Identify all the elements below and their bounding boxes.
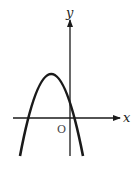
coordinate-graph: y x O xyxy=(0,0,138,170)
parabola-curve xyxy=(20,74,83,156)
origin-label: O xyxy=(57,123,66,136)
x-axis-label: x xyxy=(123,110,131,125)
y-axis-label: y xyxy=(65,5,74,20)
